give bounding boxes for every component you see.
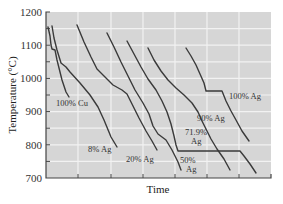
x-axis-title: Time [147, 183, 170, 195]
cooling-curves-chart: 1200 1100 1000 900 800 700 Temperature (… [0, 0, 283, 204]
y-tick-900: 900 [26, 105, 43, 117]
y-tick-1000: 1000 [20, 72, 43, 84]
y-tick-labels: 1200 1100 1000 900 800 700 [20, 6, 43, 184]
y-tick-1100: 1100 [20, 39, 42, 51]
label-71-9-ag-line2: Ag [191, 136, 202, 146]
label-8-ag: 8% Ag [88, 144, 112, 154]
y-axis-title: Temperature (°C) [6, 56, 19, 134]
label-100-cu: 100% Cu [56, 98, 89, 108]
label-100-ag: 100% Ag [229, 91, 262, 101]
label-50-ag-line2: Ag [186, 164, 197, 174]
y-tick-1200: 1200 [20, 6, 43, 18]
label-90-ag: 90% Ag [197, 113, 225, 123]
y-tick-800: 800 [26, 139, 43, 151]
label-20-ag: 20% Ag [126, 154, 154, 164]
y-tick-700: 700 [26, 172, 43, 184]
